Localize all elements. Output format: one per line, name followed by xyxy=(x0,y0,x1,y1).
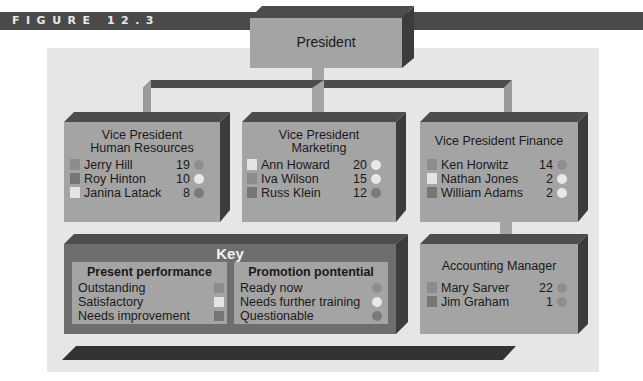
bottom-slab xyxy=(0,0,643,381)
